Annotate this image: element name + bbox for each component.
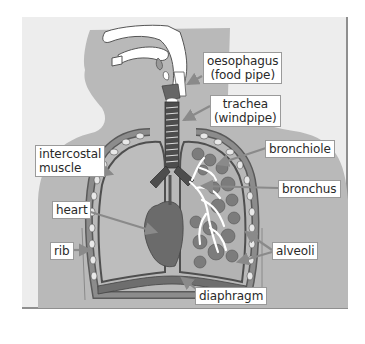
label-rib: rib	[50, 242, 74, 260]
label-oesophagus-line2: (food pipe)	[207, 68, 278, 82]
label-oesophagus: oesophagus (food pipe)	[203, 52, 282, 84]
label-bronchiole-text: bronchiole	[269, 142, 331, 156]
label-alveoli: alveoli	[272, 242, 318, 260]
label-bronchus-text: bronchus	[282, 182, 337, 196]
label-trachea-line2: (windpipe)	[214, 111, 277, 125]
label-alveoli-text: alveoli	[276, 244, 314, 258]
label-trachea-line1: trachea	[214, 97, 277, 111]
label-oesophagus-line1: oesophagus	[207, 54, 278, 68]
label-trachea: trachea (windpipe)	[210, 95, 281, 127]
label-intercostal-line2: muscle	[39, 161, 101, 175]
trachea-tube	[165, 102, 179, 168]
label-rib-text: rib	[54, 244, 70, 258]
label-diaphragm: diaphragm	[195, 287, 267, 305]
label-bronchiole: bronchiole	[265, 140, 335, 158]
label-heart-text: heart	[56, 203, 87, 217]
label-intercostal-line1: intercostal	[39, 147, 101, 161]
label-diaphragm-text: diaphragm	[199, 289, 263, 303]
label-heart: heart	[52, 201, 91, 219]
label-bronchus: bronchus	[278, 180, 341, 198]
label-intercostal-muscle: intercostal muscle	[35, 145, 105, 177]
